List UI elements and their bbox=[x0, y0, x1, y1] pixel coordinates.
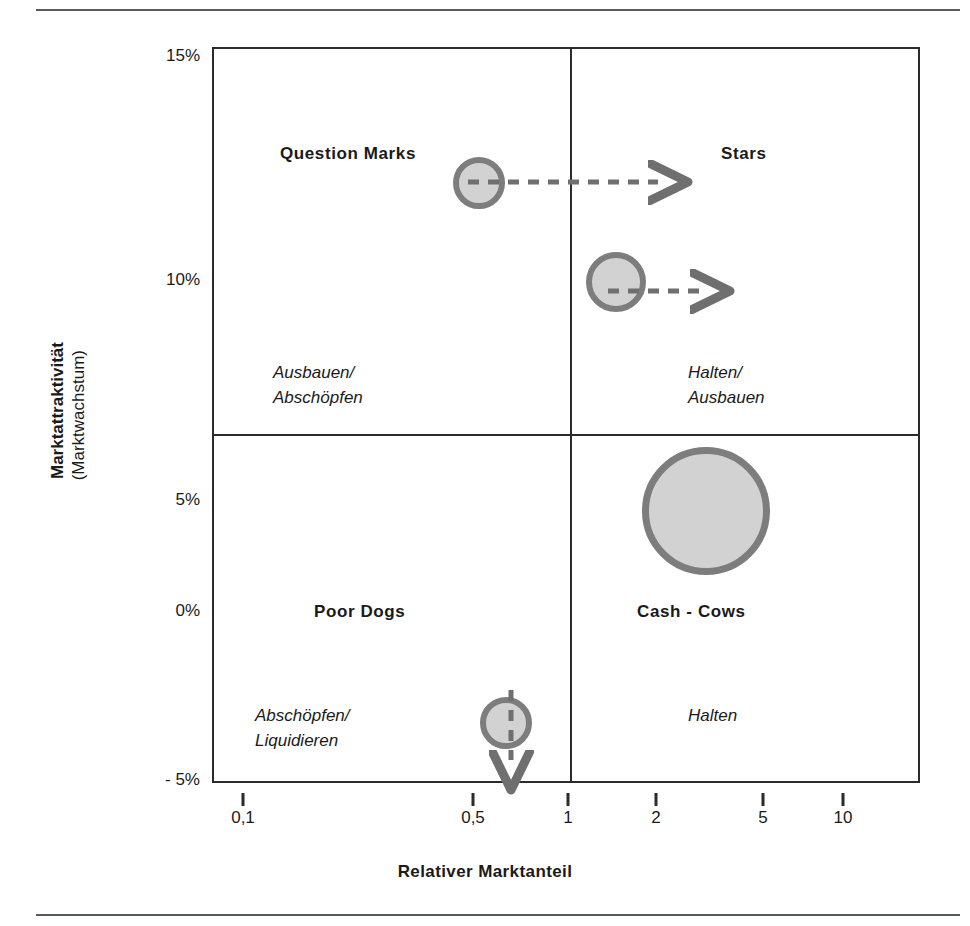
x-tickmark-1 bbox=[567, 793, 570, 806]
quadrant-title-cash-cows: Cash - Cows bbox=[637, 602, 746, 622]
x-tick-label-5: 5 bbox=[758, 808, 767, 828]
quadrant-title-stars: Stars bbox=[721, 144, 767, 164]
quadrant-strategy-cash-cows: Halten bbox=[688, 704, 737, 729]
y-tick-15: 15% bbox=[166, 46, 200, 66]
quadrant-strategy-stars: Halten/ Ausbauen bbox=[688, 361, 765, 410]
x-tick-label-10: 10 bbox=[834, 808, 853, 828]
x-tickmark-0,5 bbox=[472, 793, 475, 806]
y-tick-neg5: - 5% bbox=[165, 770, 200, 790]
strategy-line-1: Halten bbox=[688, 704, 737, 729]
strategy-line-2: Liquidieren bbox=[255, 729, 350, 754]
x-tickmark-10 bbox=[842, 793, 845, 806]
x-tick-label-1: 1 bbox=[563, 808, 572, 828]
y-axis-title-line1: Marktattraktivität bbox=[49, 342, 66, 479]
strategy-line-1: Abschöpfen/ bbox=[255, 704, 350, 729]
bcg-matrix-page: 15% 10% 5% 0% - 5% Marktattraktivität (M… bbox=[0, 0, 970, 926]
x-tickmark-2 bbox=[655, 793, 658, 806]
x-tick-label-0,1: 0,1 bbox=[231, 808, 255, 828]
quadrant-divider-horizontal bbox=[214, 434, 918, 436]
strategy-line-2: Ausbauen bbox=[688, 386, 765, 411]
y-axis-title-line2: (Marktwachstum) bbox=[70, 350, 87, 480]
bubble-cash-cow[interactable] bbox=[642, 447, 770, 575]
quadrant-title-poor-dogs: Poor Dogs bbox=[314, 602, 405, 622]
y-axis-tick-labels: 15% 10% 5% 0% - 5% bbox=[120, 0, 200, 926]
bubble-poor-dog[interactable] bbox=[480, 697, 532, 749]
quadrant-strategy-question-marks: Ausbauen/ Abschöpfen bbox=[273, 361, 363, 410]
quadrant-title-question-marks: Question Marks bbox=[280, 144, 416, 164]
y-tick-5: 5% bbox=[175, 490, 200, 510]
x-tick-label-0,5: 0,5 bbox=[461, 808, 485, 828]
y-tick-10: 10% bbox=[166, 270, 200, 290]
plot-frame: Question Marks Stars Poor Dogs Cash - Co… bbox=[212, 47, 920, 783]
y-tick-0: 0% bbox=[175, 601, 200, 621]
x-tickmark-0,1 bbox=[242, 793, 245, 806]
x-tick-label-2: 2 bbox=[651, 808, 660, 828]
y-axis-title: Marktattraktivität (Marktwachstum) bbox=[18, 320, 114, 620]
x-tickmark-5 bbox=[762, 793, 765, 806]
bubble-star[interactable] bbox=[586, 252, 646, 312]
strategy-line-1: Ausbauen/ bbox=[273, 361, 363, 386]
quadrant-divider-vertical bbox=[570, 49, 572, 781]
strategy-line-1: Halten/ bbox=[688, 361, 765, 386]
bubble-question-mark[interactable] bbox=[453, 157, 505, 209]
x-axis-title: Relativer Marktanteil bbox=[0, 862, 970, 882]
quadrant-strategy-poor-dogs: Abschöpfen/ Liquidieren bbox=[255, 704, 350, 753]
strategy-line-2: Abschöpfen bbox=[273, 386, 363, 411]
